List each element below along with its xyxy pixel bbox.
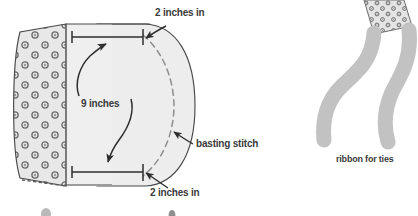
label-top-2-inches-in: 2 inches in bbox=[155, 7, 205, 18]
ribbon-tie-left bbox=[324, 33, 374, 140]
pattern-diagram-svg: 2 inches in 9 inches basting stitch 2 in… bbox=[0, 0, 418, 216]
label-9-inches: 9 inches bbox=[81, 98, 120, 109]
cutoff-shapes-bottom bbox=[41, 208, 175, 216]
label-ribbon-for-ties: ribbon for ties bbox=[336, 154, 394, 164]
diagram-canvas: 2 inches in 9 inches basting stitch 2 in… bbox=[0, 0, 418, 216]
dotted-fabric-panel bbox=[14, 24, 66, 186]
label-basting-stitch: basting stitch bbox=[196, 138, 258, 149]
ribbon-figure bbox=[324, 0, 412, 142]
cutoff-blob-left bbox=[41, 208, 51, 216]
ribbon-tie-right bbox=[385, 30, 409, 142]
cutoff-blob-right bbox=[169, 210, 176, 216]
label-bottom-2-inches-in: 2 inches in bbox=[150, 187, 200, 198]
